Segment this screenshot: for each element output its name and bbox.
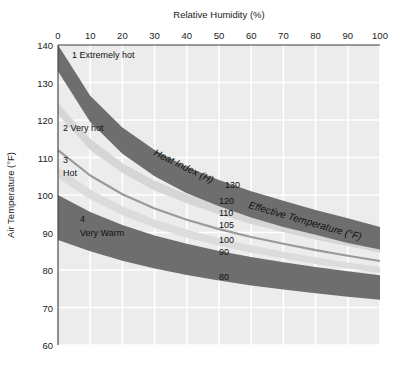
zone-label-3-text: Hot [63,168,78,178]
zone-label-4-number: 4 [80,214,85,224]
x-tick-label: 50 [214,30,225,41]
x-tick-label: 100 [372,30,388,41]
curve-label-110: 110 [219,208,233,218]
curve-label-130: 130 [225,180,240,190]
zone-label-3-number: 3 [63,155,68,165]
y-tick-label: 110 [38,153,53,164]
x-axis-title: Relative Humidity (%) [173,9,264,20]
y-tick-label: 90 [42,228,53,239]
x-tick-label: 60 [246,30,257,41]
heat-index-chart: 0102030405060708090100 14013012011010090… [0,0,403,366]
x-tick-label: 30 [149,30,160,41]
y-tick-label: 60 [42,340,53,351]
y-tick-label: 140 [37,40,53,51]
y-tick-label: 130 [37,78,53,89]
curve-label-80: 80 [219,272,229,282]
y-tick-label: 80 [42,265,53,276]
curve-label-120: 120 [219,196,234,206]
zone-label-1: 1 Extremely hot [72,50,135,60]
curve-label-105: 105 [219,220,234,230]
x-tick-label: 80 [310,30,321,41]
y-axis-title: Air Temperature (°F) [5,152,16,238]
x-tick-label: 0 [55,30,60,41]
zone-label-2: 2 Very hot [63,123,104,133]
x-tick-label: 20 [117,30,128,41]
y-tick-label: 120 [37,115,53,126]
x-tick-label: 90 [343,30,354,41]
curve-label-90: 90 [219,247,229,257]
y-tick-label: 100 [37,190,53,201]
x-tick-label: 40 [182,30,193,41]
x-tick-label: 70 [278,30,289,41]
zone-label-4-text: Very Warm [80,228,124,238]
curve-label-100: 100 [219,235,234,245]
y-tick-label: 70 [42,303,53,314]
x-tick-label: 10 [85,30,96,41]
chart-svg: 0102030405060708090100 14013012011010090… [0,0,403,366]
